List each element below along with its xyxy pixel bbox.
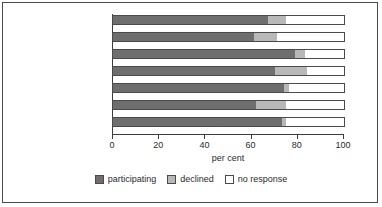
x-tick-label-80: 80 — [292, 140, 302, 150]
x-tick-100 — [343, 135, 344, 139]
bar-segment-no-response — [289, 84, 344, 92]
bar-segment-no-response — [307, 67, 344, 75]
legend-swatch-icon — [167, 175, 176, 184]
bar-segment-declined — [275, 67, 307, 75]
stacked-bar — [112, 100, 345, 110]
stacked-bar — [112, 32, 345, 42]
legend-item: no response — [225, 174, 288, 184]
bar-segment-no-response — [286, 118, 344, 126]
bar-segment-no-response — [286, 16, 344, 24]
legend-label: participating — [108, 174, 157, 184]
x-tick-20 — [158, 135, 159, 139]
x-axis-line — [112, 134, 344, 135]
stacked-bar — [112, 66, 345, 76]
x-tick-label-100: 100 — [335, 140, 350, 150]
x-tick-80 — [297, 135, 298, 139]
bar-segment-participating — [113, 33, 254, 41]
bar-segment-declined — [268, 16, 286, 24]
bar-segment-declined — [256, 101, 286, 109]
legend-label: declined — [180, 174, 214, 184]
stacked-bar — [112, 15, 345, 25]
bar-segment-no-response — [305, 50, 344, 58]
legend-label: no response — [238, 174, 288, 184]
bar-segment-participating — [113, 16, 268, 24]
chart-legend: participatingdeclinedno response — [0, 174, 382, 184]
bar-segment-no-response — [277, 33, 344, 41]
bar-segment-participating — [113, 50, 295, 58]
stacked-bar — [112, 117, 345, 127]
x-tick-60 — [251, 135, 252, 139]
bar-segment-no-response — [286, 101, 344, 109]
x-axis-title: per cent — [112, 153, 344, 163]
x-tick-40 — [204, 135, 205, 139]
x-tick-0 — [112, 135, 113, 139]
x-tick-label-20: 20 — [153, 140, 163, 150]
bar-segment-declined — [295, 50, 304, 58]
bar-segment-participating — [113, 101, 256, 109]
x-tick-label-0: 0 — [109, 140, 114, 150]
bar-segment-declined — [254, 33, 277, 41]
bar-segment-participating — [113, 84, 284, 92]
legend-swatch-icon — [95, 175, 104, 184]
stacked-bar — [112, 83, 345, 93]
x-tick-label-60: 60 — [246, 140, 256, 150]
bar-segment-participating — [113, 118, 282, 126]
legend-item: declined — [167, 174, 214, 184]
stacked-bar — [112, 49, 345, 59]
x-tick-label-40: 40 — [199, 140, 209, 150]
chart-figure: 020406080100 Total (211)Other (61)Outer … — [0, 0, 382, 207]
legend-item: participating — [95, 174, 157, 184]
legend-swatch-icon — [225, 175, 234, 184]
bar-segment-participating — [113, 67, 275, 75]
